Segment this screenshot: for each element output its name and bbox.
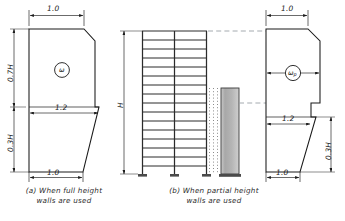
dim-label-b-bottom-width: 1.0 [276,168,288,177]
omega-p-subscript: p [294,71,297,77]
profile-a-outline [29,29,99,172]
panel-b-profile [266,29,320,172]
dim-label-b-mid-width: 1.2 [282,114,294,123]
caption-panel-a: (a) When full height walls are used [2,186,126,205]
dim-label-a-top-width: 1.0 [47,4,59,13]
dotted-bay [210,88,218,174]
dim-label-a-upper-height: 0.7H [6,64,15,82]
profile-b-outline [266,29,320,172]
omega-symbol-a: ω [59,66,65,74]
dim-label-a-bottom-width: 1.0 [47,168,59,177]
base-supports [138,174,211,177]
omega-p-symbol-b: ωp [288,69,297,77]
dim-label-a-lower-height: 0.3H [6,134,15,152]
figure-canvas: 1.0 1.0 1.2 0.7H 0.3H ω H 1.0 1.2 1.0 0.… [0,0,345,221]
dim-label-b-top-width: 1.0 [281,4,293,13]
shear-wall-block [219,88,241,177]
dim-label-b-lower-height: 0.3H [324,142,333,160]
panel-a-profile [29,29,99,172]
dim-label-b-height-H: H [116,102,125,108]
caption-panel-b: (b) When partial height walls are used [146,186,282,205]
dim-label-a-mid-width: 1.2 [55,103,67,112]
frame-elevation [138,31,211,177]
